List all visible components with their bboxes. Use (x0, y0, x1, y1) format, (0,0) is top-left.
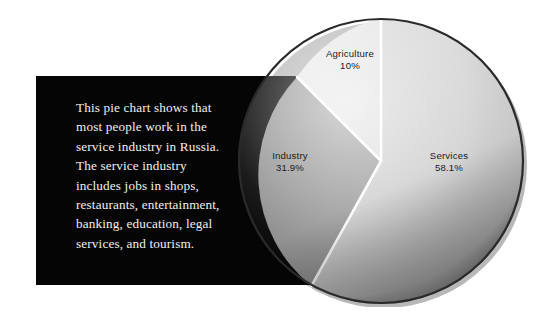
pie-chart-figure: This pie chart shows that most people wo… (0, 0, 539, 312)
pie-chart (235, 9, 527, 307)
pie-chart-svg (235, 9, 527, 307)
